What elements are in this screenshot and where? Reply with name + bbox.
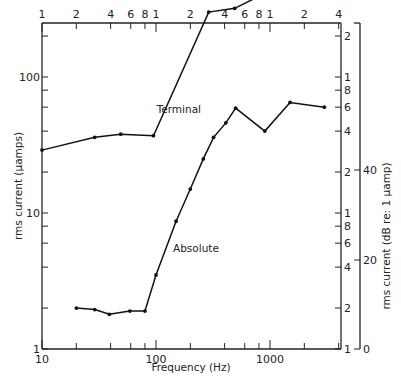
y-axis-title-right: rms current (dB re: 1 μamp) <box>380 162 392 309</box>
absolute-data-point <box>128 309 132 313</box>
series-group <box>40 0 326 316</box>
absolute-series-label: Absolute <box>173 242 219 254</box>
y-tick-label-right-log: 2 <box>344 166 351 179</box>
x-tick-label-top: 4 <box>335 8 342 21</box>
terminal-series-label: Terminal <box>156 103 201 115</box>
terminal-data-point <box>152 134 156 138</box>
absolute-data-point <box>288 101 292 105</box>
y-tick-label-right-log: 2 <box>344 302 351 315</box>
x-tick-label-top: 6 <box>241 8 248 21</box>
x-tick-label-top: 2 <box>73 8 80 21</box>
absolute-data-point <box>154 273 158 277</box>
absolute-data-point <box>212 135 216 139</box>
absolute-data-point <box>263 129 267 133</box>
absolute-data-point <box>322 105 326 109</box>
y-tick-label-db: 20 <box>363 254 377 267</box>
y-tick-label-db: 0 <box>363 343 370 356</box>
x-tick-label-top: 2 <box>187 8 194 21</box>
y-tick-label-right-log: 6 <box>344 237 351 250</box>
absolute-data-point <box>234 106 238 110</box>
y-tick-label-right-log: 8 <box>344 84 351 97</box>
y-tick-label-right-log: 1 <box>344 343 351 356</box>
terminal-data-point <box>207 10 211 14</box>
x-tick-label-bottom: 1000 <box>256 353 284 366</box>
absolute-data-point <box>188 187 192 191</box>
axes-group: 1010010001246812468124110100124681246812… <box>19 0 377 366</box>
terminal-data-point <box>40 148 44 152</box>
absolute-data-point <box>201 157 205 161</box>
absolute-series-line <box>76 102 324 314</box>
absolute-data-point <box>143 309 147 313</box>
y-tick-label-left: 1 <box>33 343 40 356</box>
terminal-data-point <box>93 135 97 139</box>
x-tick-label-top: 1 <box>153 8 160 21</box>
y-tick-label-right-log: 2 <box>344 30 351 43</box>
y-tick-label-right-log: 4 <box>344 261 351 274</box>
x-tick-label-top: 1 <box>39 8 46 21</box>
y-tick-label-right-log: 4 <box>344 0 351 2</box>
absolute-data-point <box>93 308 97 312</box>
y-tick-label-right-log: 1 <box>344 207 351 220</box>
x-axis-title: Frequency (Hz) <box>151 361 230 373</box>
y-axis-title-left: rms current (μamps) <box>12 132 24 240</box>
frequency-response-chart: 1010010001246812468124110100124681246812… <box>0 0 401 381</box>
absolute-data-point <box>107 312 111 316</box>
y-tick-label-left: 10 <box>26 207 40 220</box>
y-tick-label-right-log: 4 <box>344 125 351 138</box>
absolute-data-point <box>224 121 228 125</box>
terminal-data-point <box>233 6 237 10</box>
x-tick-label-top: 8 <box>141 8 148 21</box>
x-tick-label-top: 2 <box>301 8 308 21</box>
x-tick-label-top: 1 <box>267 8 274 21</box>
x-tick-label-top: 4 <box>107 8 114 21</box>
y-tick-label-right-log: 6 <box>344 101 351 114</box>
x-tick-label-top: 8 <box>255 8 262 21</box>
terminal-data-point <box>119 132 123 136</box>
absolute-data-point <box>74 306 78 310</box>
y-tick-label-left: 100 <box>19 71 40 84</box>
y-tick-label-right-log: 8 <box>344 220 351 233</box>
x-tick-label-top: 6 <box>127 8 134 21</box>
absolute-data-point <box>174 219 178 223</box>
y-tick-label-right-log: 1 <box>344 71 351 84</box>
y-tick-label-db: 40 <box>363 164 377 177</box>
